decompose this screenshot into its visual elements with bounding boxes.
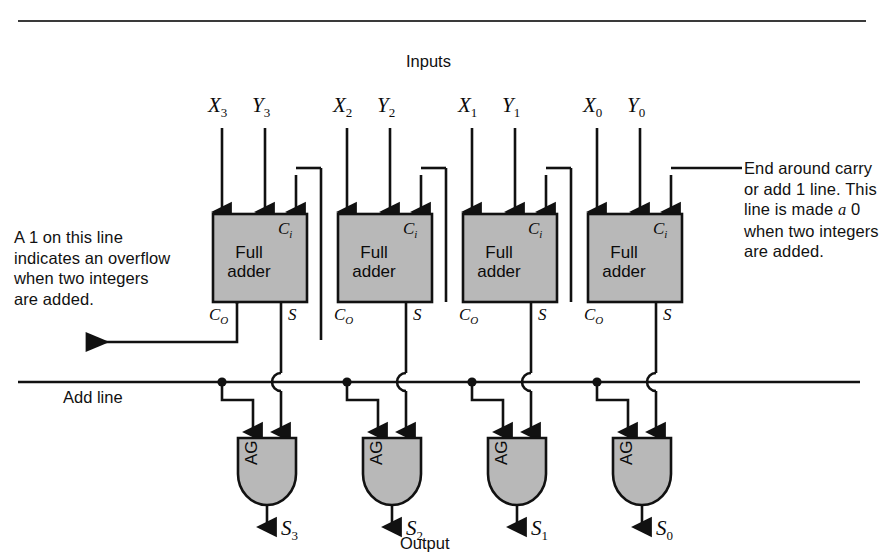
input-label-x3: X3 (208, 93, 227, 121)
pin-label-ci-0: Ci (653, 219, 667, 240)
pin-label-s-0: S (663, 305, 672, 325)
overflow-line-2: indicates an overflow (14, 248, 209, 269)
output-label-s2: S2 (406, 516, 423, 544)
inputs-caption: Inputs (406, 52, 451, 71)
figure-canvas: Inputs Output X3 Y3 X2 Y2 X1 Y1 X0 Y0 Fu… (0, 0, 883, 559)
end-carry-line-3a: line is made (744, 200, 838, 218)
end-carry-line-2: or add 1 line. This (744, 179, 883, 200)
pin-label-co-0: CO (584, 305, 603, 326)
end-carry-line-5: are added. (744, 241, 883, 262)
end-carry-line-3: line is made a 0 (744, 199, 883, 221)
overflow-line-3: when two integers (14, 268, 209, 289)
adder-text-3: Full adder (213, 243, 285, 281)
junction-dot-1 (467, 377, 476, 386)
overflow-annotation: A 1 on this line indicates an overflow w… (14, 227, 209, 309)
output-label-s3: S3 (281, 516, 298, 544)
input-label-x1: X1 (458, 93, 477, 121)
overflow-line-1: A 1 on this line (14, 227, 209, 248)
junction-dot-3 (217, 377, 226, 386)
adder-line1-2: Full (338, 243, 410, 262)
adder-line2-0: adder (588, 262, 660, 281)
pin-label-ci-2: Ci (403, 219, 417, 240)
end-carry-line-3b: 0 (846, 200, 860, 218)
tap-addline-ag0 (597, 382, 628, 432)
input-label-y2: Y2 (377, 93, 395, 121)
pin-label-co-2: CO (334, 305, 353, 326)
junction-dot-0 (592, 377, 601, 386)
adder-line1-3: Full (213, 243, 285, 262)
pin-label-co-3: CO (209, 305, 228, 326)
end-carry-line-1: End around carry (744, 158, 883, 179)
overflow-line-4: are added. (14, 289, 209, 310)
pin-label-co-1: CO (459, 305, 478, 326)
input-label-y1: Y1 (502, 93, 520, 121)
adder-line2-2: adder (338, 262, 410, 281)
input-label-y3: Y3 (252, 93, 270, 121)
tap-addline-ag1 (472, 382, 503, 432)
adder-text-2: Full adder (338, 243, 410, 281)
adder-text-0: Full adder (588, 243, 660, 281)
tap-addline-ag2 (347, 382, 378, 432)
end-carry-line-4: when two integers (744, 221, 883, 242)
adder-text-1: Full adder (463, 243, 535, 281)
wires-group (18, 128, 860, 527)
adder-line2-3: adder (213, 262, 285, 281)
adder-line1-0: Full (588, 243, 660, 262)
adder-line2-1: adder (463, 262, 535, 281)
pin-label-ci-3: Ci (278, 219, 292, 240)
adder-line1-1: Full (463, 243, 535, 262)
output-label-s1: S1 (531, 516, 548, 544)
pin-label-ci-1: Ci (528, 219, 542, 240)
output-label-s0: S0 (656, 516, 673, 544)
input-label-x0: X0 (583, 93, 602, 121)
pin-label-s-1: S (538, 305, 547, 325)
add-line-label: Add line (63, 388, 123, 407)
ag-gates (238, 438, 671, 505)
pin-label-s-3: S (288, 305, 297, 325)
junction-dot-2 (342, 377, 351, 386)
tap-addline-ag3 (222, 382, 253, 432)
end-carry-annotation: End around carry or add 1 line. This lin… (744, 158, 883, 262)
pin-label-s-2: S (413, 305, 422, 325)
input-label-y0: Y0 (627, 93, 645, 121)
input-label-x2: X2 (333, 93, 352, 121)
